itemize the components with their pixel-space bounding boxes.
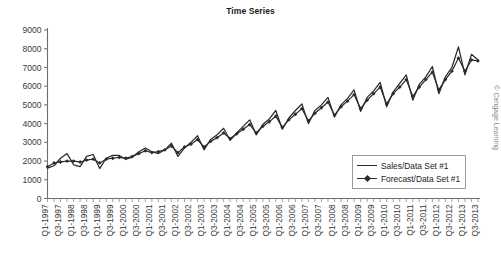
- y-tick-label: 7000: [22, 63, 41, 73]
- series-marker: [65, 159, 69, 163]
- legend-line-icon: [357, 161, 377, 171]
- x-tick-label: Q1-2005: [249, 204, 258, 236]
- x-tick-label: Q1-2010: [380, 204, 389, 236]
- x-tick-label: Q3-2013: [471, 204, 480, 236]
- x-tick-label: Q1-2013: [458, 204, 467, 236]
- y-tick-label: 5000: [22, 100, 41, 110]
- x-tick-label: Q3-2002: [184, 204, 193, 236]
- legend-line-marker-icon: [357, 174, 377, 184]
- x-tick-label: Q1-2006: [275, 204, 284, 236]
- y-axis: 0100020003000400050006000700080009000: [22, 25, 47, 204]
- x-tick-label: Q3-1997: [54, 204, 63, 236]
- y-tick-label: 9000: [22, 25, 41, 35]
- x-tick-label: Q3-2011: [419, 204, 428, 236]
- x-tick-label: Q3-1998: [80, 204, 89, 236]
- copyright-attribution: © Cengage Learning: [493, 85, 500, 150]
- x-tick-label: Q3-2003: [210, 204, 219, 236]
- series-marker: [111, 156, 115, 160]
- x-tick-label: Q1-2007: [301, 204, 310, 236]
- x-tick-label: Q3-2008: [341, 204, 350, 236]
- x-tick-label: Q1-2001: [145, 204, 154, 236]
- x-tick-label: Q3-2012: [445, 204, 454, 236]
- y-tick-label: 2000: [22, 156, 41, 166]
- x-tick-label: Q1-2002: [171, 204, 180, 236]
- legend-item-sales: Sales/Data Set #1: [357, 159, 460, 172]
- x-tick-label: Q3-2010: [393, 204, 402, 236]
- chart-figure: Time Series 0100020003000400050006000700…: [0, 0, 501, 262]
- x-tick-label: Q3-2000: [132, 204, 141, 236]
- x-tick-label: Q1-2004: [223, 204, 232, 236]
- x-tick-label: Q3-1999: [106, 204, 115, 236]
- x-tick-label: Q1-2011: [406, 204, 415, 236]
- series-marker: [124, 156, 128, 160]
- x-tick-label: Q1-2009: [354, 204, 363, 236]
- series-marker: [78, 160, 82, 164]
- x-axis: Q1-1997Q3-1997Q1-1998Q3-1998Q1-1999Q3-19…: [41, 199, 481, 237]
- x-tick-label: Q1-2003: [197, 204, 206, 236]
- y-tick-label: 3000: [22, 137, 41, 147]
- y-tick-label: 8000: [22, 44, 41, 54]
- x-tick-label: Q1-2008: [328, 204, 337, 236]
- y-tick-label: 0: [37, 194, 42, 204]
- series-line-1: [48, 58, 479, 167]
- chart-plot-area: 0100020003000400050006000700080009000 Q1…: [0, 0, 501, 262]
- x-tick-label: Q1-1999: [93, 204, 102, 236]
- x-tick-label: Q1-2012: [432, 204, 441, 236]
- series-line-0: [48, 47, 479, 169]
- y-tick-label: 6000: [22, 81, 41, 91]
- chart-legend: Sales/Data Set #1 Forecast/Data Set #1: [352, 155, 466, 189]
- data-series: [46, 47, 480, 169]
- x-tick-label: Q3-2005: [262, 204, 271, 236]
- legend-label-sales: Sales/Data Set #1: [381, 161, 449, 171]
- x-tick-label: Q1-2000: [119, 204, 128, 236]
- x-tick-label: Q1-1997: [41, 204, 50, 236]
- x-tick-label: Q3-2006: [288, 204, 297, 236]
- y-tick-label: 4000: [22, 119, 41, 129]
- y-tick-label: 1000: [22, 175, 41, 185]
- legend-item-forecast: Forecast/Data Set #1: [357, 172, 460, 185]
- x-tick-label: Q3-2007: [314, 204, 323, 236]
- x-tick-label: Q3-2004: [236, 204, 245, 236]
- legend-label-forecast: Forecast/Data Set #1: [381, 174, 460, 184]
- x-tick-label: Q3-2001: [158, 204, 167, 236]
- x-tick-label: Q1-1998: [67, 204, 76, 236]
- x-tick-label: Q3-2009: [367, 204, 376, 236]
